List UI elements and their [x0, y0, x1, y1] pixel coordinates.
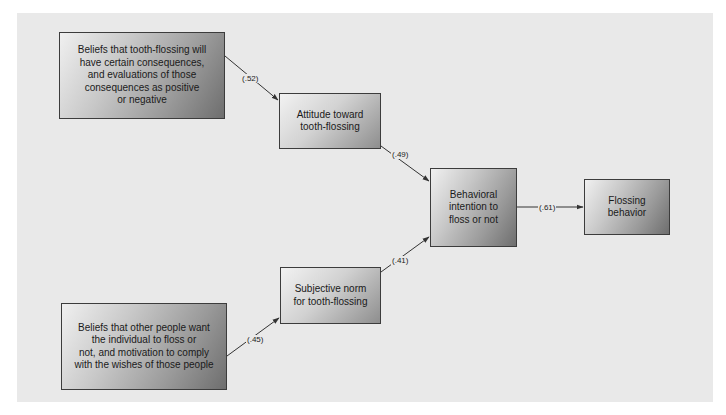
coefficient-norm-to-intention: (.41) — [391, 256, 409, 265]
node-subjective-norm: Subjective norm for tooth-flossing — [280, 267, 381, 324]
node-label: Beliefs that tooth-flossing will have ce… — [78, 44, 206, 107]
diagram-canvas: Beliefs that tooth-flossing will have ce… — [0, 0, 726, 415]
node-label: Flossing behavior — [608, 195, 646, 220]
node-behavioral-beliefs: Beliefs that tooth-flossing will have ce… — [59, 32, 225, 119]
node-label: Behavioral intention to floss or not — [449, 189, 498, 227]
node-label: Beliefs that other people want the indiv… — [75, 322, 214, 372]
coefficient-attitude-to-intention: (.49) — [391, 150, 409, 159]
node-behavioral-intention: Behavioral intention to floss or not — [430, 168, 517, 247]
node-flossing-behavior: Flossing behavior — [584, 179, 670, 235]
coefficient-beliefs-to-attitude: (.52) — [241, 74, 259, 83]
node-label: Attitude toward tooth-flossing — [297, 109, 364, 134]
node-attitude: Attitude toward tooth-flossing — [279, 93, 381, 149]
coefficient-intention-to-behavior: (.61) — [538, 203, 556, 212]
coefficient-normative-to-norm: (.45) — [246, 335, 264, 344]
node-label: Subjective norm for tooth-flossing — [294, 283, 368, 308]
node-normative-beliefs: Beliefs that other people want the indiv… — [61, 303, 227, 390]
